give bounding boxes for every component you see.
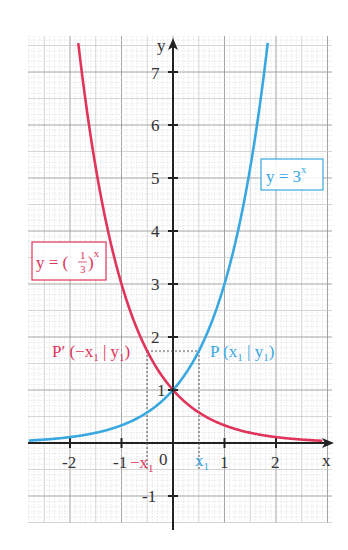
neg-x1-label: −x1 [130,453,154,474]
x-tick-label: -2 [62,453,76,472]
x-axis-label: x [322,451,331,470]
legend-exp: x [94,247,100,259]
legend-text: y = 3x [266,163,307,186]
x1-sub: 1 [204,460,210,472]
y-tick-label: 7 [151,64,160,83]
legend-frac-num: 1 [80,249,86,261]
y-tick-label: 2 [151,328,160,347]
origin-label: 0 [159,450,168,469]
p-a: P (x [210,342,238,361]
y-axis-label: y [157,36,166,55]
p-c: ) [269,342,275,361]
intersection-point [171,388,175,392]
y-tick-label: 1 [157,381,166,400]
x1-label: x1 [195,451,209,472]
legend-frac-den: 3 [80,263,86,275]
neg-x1-sub: 1 [148,462,154,474]
pp-b: | y [99,342,120,361]
x-tick-label: 1 [220,453,229,472]
y-tick-label: 6 [151,116,160,135]
point-p-prime-label: P′ (−x1 | y1) [52,342,130,363]
y-tick-label: -1 [142,487,156,506]
p-b: | y [243,342,264,361]
exponential-chart: -2 -1 0 1 2 x -1 1 2 3 4 5 6 7 y −x1 x1 … [0,0,348,550]
y-tick-label: 3 [151,275,160,294]
point-p-label: P (x1 | y1) [210,342,274,363]
x-tick-label: -1 [113,453,127,472]
neg-x1-text: −x [130,453,149,472]
y-tick-label: 4 [151,222,160,241]
legend-pre: y = ( [36,253,69,272]
legend-exp: x [301,163,307,175]
pp-a: P′ (−x [52,342,94,361]
pp-c: ) [125,342,131,361]
x-tick-label: 2 [271,453,280,472]
curve-one-third-power-x [78,43,322,441]
legend-one-third-power-x: y = ( 1 3 )x [32,242,106,280]
y-tick-label: 5 [151,169,160,188]
legend-base: y = 3 [266,167,301,186]
legend-text: y = ( [36,253,69,272]
legend-three-power-x: y = 3x [261,159,323,190]
